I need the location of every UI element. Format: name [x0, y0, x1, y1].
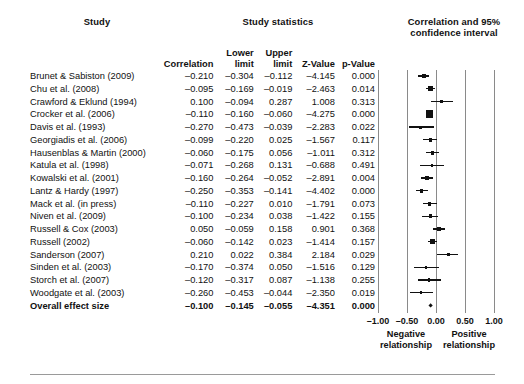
- cell-p-value: 0.022: [335, 121, 375, 134]
- cell-lower-limit: –0.374: [213, 261, 253, 274]
- cell-lower-limit: –0.145: [213, 300, 253, 313]
- axis-tick-label: 0.50: [456, 316, 474, 326]
- table-row: Mack et al. (in press)–0.110–0.2270.010–…: [30, 198, 375, 211]
- table-row: Davis et al. (1993)–0.270–0.473–0.039–2.…: [30, 121, 375, 134]
- cell-p-value: 0.019: [335, 287, 375, 300]
- cell-p-value: 0.000: [335, 300, 375, 313]
- effect-size-marker: [428, 86, 433, 91]
- cell-p-value: 0.155: [335, 210, 375, 223]
- cell-p-value: 0.157: [335, 236, 375, 249]
- cell-study: Storch et al. (2007): [30, 274, 158, 287]
- cell-upper-limit: –0.019: [254, 83, 293, 96]
- cell-upper-limit: 0.050: [254, 261, 293, 274]
- cell-upper-limit: 0.023: [254, 236, 293, 249]
- col-header-lower-limit-line2: limit: [235, 59, 254, 69]
- cell-study: Sanderson (2007): [30, 249, 158, 262]
- effect-size-marker: [422, 74, 426, 79]
- cell-study: Hausenblas & Martin (2000): [30, 147, 158, 160]
- table-row: Storch et al. (2007)–0.120–0.3170.087–1.…: [30, 274, 375, 287]
- cell-p-value: 0.000: [335, 108, 375, 121]
- cell-study: Niven et al. (2009): [30, 210, 158, 223]
- cell-correlation: –0.060: [158, 236, 213, 249]
- statistics-table: Correlation Lower limit Upper limit Z-Va…: [30, 48, 375, 312]
- effect-size-marker: [440, 100, 443, 103]
- cell-lower-limit: –0.175: [213, 147, 253, 160]
- cell-upper-limit: –0.039: [254, 121, 293, 134]
- cell-lower-limit: –0.473: [213, 121, 253, 134]
- cell-lower-limit: –0.227: [213, 198, 253, 211]
- effect-size-marker: [428, 202, 431, 206]
- cell-correlation: –0.100: [158, 300, 213, 313]
- cell-lower-limit: –0.142: [213, 236, 253, 249]
- cell-correlation: –0.060: [158, 147, 213, 160]
- cell-study: Crawford & Eklund (1994): [30, 96, 158, 109]
- table-row: Georgiadis et al. (2006)–0.099–0.2200.02…: [30, 134, 375, 147]
- summary-row: Overall effect size–0.100–0.145–0.055–4.…: [30, 300, 375, 313]
- cell-upper-limit: 0.131: [254, 159, 293, 172]
- header-study-statistics: Study statistics: [203, 16, 353, 27]
- cell-study: Overall effect size: [30, 300, 158, 313]
- cell-z-value: –4.402: [292, 185, 335, 198]
- cell-upper-limit: –0.052: [254, 172, 293, 185]
- effect-size-marker: [425, 176, 429, 181]
- cell-correlation: 0.210: [158, 249, 213, 262]
- cell-lower-limit: –0.220: [213, 134, 253, 147]
- cell-study: Russell & Cox (2003): [30, 223, 158, 236]
- cell-upper-limit: 0.158: [254, 223, 293, 236]
- cell-lower-limit: –0.317: [213, 274, 253, 287]
- cell-z-value: 2.184: [292, 249, 335, 262]
- cell-study: Georgiadis et al. (2006): [30, 134, 158, 147]
- effect-size-marker: [420, 291, 423, 294]
- effect-size-marker: [431, 164, 434, 167]
- cell-upper-limit: –0.060: [254, 108, 293, 121]
- bottom-divider: [30, 374, 495, 375]
- col-header-z-value: Z-Value: [292, 48, 335, 70]
- col-header-study: [30, 48, 158, 70]
- cell-p-value: 0.014: [335, 83, 375, 96]
- col-header-lower-limit: Lower limit: [213, 48, 253, 70]
- table-row: Kowalski et al. (2001)–0.160–0.264–0.052…: [30, 172, 375, 185]
- cell-study: Brunet & Sabiston (2009): [30, 70, 158, 83]
- axis-tick-label: 1.00: [485, 316, 503, 326]
- cell-study: Davis et al. (1993): [30, 121, 158, 134]
- effect-size-marker: [429, 214, 432, 218]
- cell-upper-limit: 0.010: [254, 198, 293, 211]
- gridline-1: [494, 70, 495, 313]
- header-plot-title-line1: Correlation and 95%: [392, 16, 516, 27]
- table-row: Russell (2002)–0.060–0.1420.023–1.4140.1…: [30, 236, 375, 249]
- table-row: Chu et al. (2008)–0.095–0.169–0.019–2.46…: [30, 83, 375, 96]
- cell-lower-limit: –0.453: [213, 287, 253, 300]
- table-row: Crawford & Eklund (1994)0.100–0.0940.287…: [30, 96, 375, 109]
- cell-z-value: –1.516: [292, 261, 335, 274]
- cell-z-value: –1.422: [292, 210, 335, 223]
- cell-upper-limit: 0.087: [254, 274, 293, 287]
- cell-p-value: 0.029: [335, 249, 375, 262]
- statistics-table-container: Correlation Lower limit Upper limit Z-Va…: [30, 48, 375, 312]
- table-head: Correlation Lower limit Upper limit Z-Va…: [30, 48, 375, 70]
- cell-lower-limit: –0.268: [213, 159, 253, 172]
- header-plot-title-line2: confidence interval: [392, 27, 516, 38]
- cell-correlation: 0.050: [158, 223, 213, 236]
- cell-lower-limit: –0.304: [213, 70, 253, 83]
- cell-upper-limit: 0.287: [254, 96, 293, 109]
- cell-upper-limit: 0.025: [254, 134, 293, 147]
- cell-p-value: 0.255: [335, 274, 375, 287]
- axis-tick-label: –1.00: [367, 316, 390, 326]
- cell-lower-limit: –0.059: [213, 223, 253, 236]
- cell-lower-limit: –0.264: [213, 172, 253, 185]
- axis-caption-negative-line2: relationship: [380, 340, 432, 350]
- cell-correlation: –0.160: [158, 172, 213, 185]
- table-row: Hausenblas & Martin (2000)–0.060–0.1750.…: [30, 147, 375, 160]
- effect-size-marker: [430, 239, 434, 244]
- cell-z-value: 0.901: [292, 223, 335, 236]
- forest-plot-figure: Study Study statistics Correlation and 9…: [0, 0, 524, 384]
- cell-correlation: –0.100: [158, 210, 213, 223]
- col-header-upper-limit-line1: Upper: [265, 48, 292, 58]
- cell-lower-limit: –0.169: [213, 83, 253, 96]
- effect-size-marker: [437, 227, 441, 232]
- cell-z-value: –1.414: [292, 236, 335, 249]
- axis-caption-negative-line1: Negative: [387, 329, 425, 339]
- gridline-0: [436, 70, 437, 313]
- axis-tick-label: –0.50: [396, 316, 419, 326]
- cell-z-value: –2.463: [292, 83, 335, 96]
